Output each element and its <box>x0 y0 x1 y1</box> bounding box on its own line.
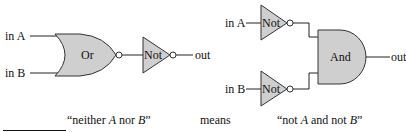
inverter-bubble-icon <box>287 20 293 26</box>
and-gate-label: And <box>330 50 351 64</box>
nor-circuit: in A in B Or Not out <box>5 29 211 80</box>
wire-a-to-and <box>293 23 319 37</box>
output-label: out <box>391 50 406 64</box>
input-a-label: in A <box>225 16 246 30</box>
or-gate-label: Or <box>81 48 94 62</box>
inverter-bubble-icon <box>116 52 122 58</box>
not-gate-b-label: Not <box>262 82 281 96</box>
inverter-bubble-icon <box>170 52 176 58</box>
caption-not-and-not: “not A and not B” <box>277 113 362 127</box>
inverter-bubble-icon <box>287 86 293 92</box>
not-and-circuit: in A Not in B Not And out <box>225 5 406 106</box>
input-b-label: in B <box>225 82 245 96</box>
caption-neither: “neither A nor B” <box>67 113 151 127</box>
caption-means: means <box>200 113 231 127</box>
not-gate-label: Not <box>144 48 163 62</box>
input-a-label: in A <box>5 29 26 43</box>
wire-b-to-and <box>293 73 319 89</box>
not-gate-a-label: Not <box>262 16 281 30</box>
logic-diagram: in A in B Or Not out in A Not in B Not A… <box>0 0 406 132</box>
input-b-label: in B <box>5 66 25 80</box>
output-label: out <box>195 48 211 62</box>
